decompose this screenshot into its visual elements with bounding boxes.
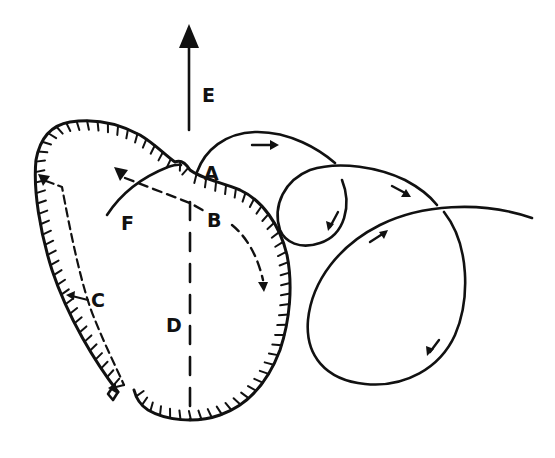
diagram-canvas: E A (0, 0, 555, 458)
hatch-tick (260, 371, 269, 374)
hatch-tick (95, 353, 102, 360)
hatch-tick (42, 142, 51, 145)
hatch-tick (243, 193, 246, 202)
label-d: D (166, 314, 182, 336)
hatch-tick (272, 345, 281, 346)
hatch-tick (142, 398, 147, 406)
hatch-tick (280, 304, 289, 305)
hatch-tick (208, 409, 212, 417)
hatch-tick (39, 211, 48, 214)
hatch-tick (265, 362, 274, 364)
hatch-tick (136, 391, 144, 396)
hatch-tick (117, 126, 118, 135)
label-c: C (91, 289, 105, 311)
direction-arrow-icon (392, 186, 411, 197)
hatch-tick (241, 393, 248, 398)
direction-arrow-icon (326, 212, 338, 231)
arrow-head-icon (38, 174, 50, 186)
hatch-tick (160, 406, 161, 415)
hatch-tick (57, 127, 63, 134)
hatch-tick (38, 151, 47, 152)
hatch-tick (159, 152, 163, 160)
label-f: F (121, 212, 134, 234)
hatch-tick (234, 398, 241, 404)
hatch-tick (50, 261, 58, 266)
hatch-tick (151, 145, 155, 153)
label-a: A (204, 162, 219, 184)
direction-arrow-icon (426, 340, 439, 356)
hatch-tick (225, 185, 226, 194)
hatch-tick (275, 242, 283, 247)
hatch-tick (182, 168, 188, 175)
hatch-tick (77, 121, 80, 130)
hatch-tick (40, 221, 48, 225)
hatch-tick (143, 139, 147, 148)
direction-arrow-icon (370, 230, 388, 242)
hatch-tick (90, 344, 97, 350)
hatch-tick (54, 270, 62, 275)
arrow-head-icon (66, 291, 75, 300)
hatch-tick (269, 353, 278, 355)
hatch-tick (75, 317, 82, 323)
hatch-tick (267, 223, 274, 229)
hatch-tick (36, 160, 45, 161)
loops-path (197, 132, 532, 385)
hatch-tick (135, 134, 137, 143)
hatch-tick (281, 273, 290, 276)
hatch-tick (101, 362, 107, 369)
hatch-tick (235, 188, 236, 197)
hatch-tick (43, 231, 51, 235)
hatch-tick (45, 241, 53, 245)
hatch-tick (85, 335, 92, 341)
hatch-tick (248, 386, 256, 391)
hatched-contour (35, 121, 290, 420)
hatch-tick (254, 379, 262, 383)
arrow-up-icon (179, 24, 199, 48)
hatch-tick (262, 214, 268, 221)
hatch-tick (278, 252, 286, 256)
label-e: E (202, 84, 215, 106)
hatch-tick (198, 411, 201, 420)
hatch-tick (257, 206, 262, 214)
hatch-tick (126, 129, 128, 138)
hatch-tick (48, 251, 56, 255)
hatch-tick (272, 232, 279, 238)
arrow-head-icon (258, 282, 268, 292)
hatch-tick (150, 402, 152, 411)
hatch-tick (250, 199, 254, 207)
direction-arrow-icon (252, 140, 279, 150)
hatch-tick (279, 314, 288, 315)
hatch-tick (57, 280, 65, 285)
dashed-arrow-c (38, 174, 124, 393)
hatch-tick (225, 403, 231, 410)
label-b: B (207, 209, 221, 231)
hatch-tick (194, 174, 196, 183)
hatch-tick (179, 410, 180, 419)
hatch-tick (98, 121, 99, 130)
hatch-tick (70, 308, 77, 314)
hatch-tick (217, 407, 222, 415)
hatch-tick (48, 133, 56, 138)
hatch-tick (79, 326, 86, 332)
hatch-tick (107, 370, 113, 377)
hatch-tick (61, 289, 69, 294)
hatch-tick (36, 190, 45, 193)
hatch-tick (280, 262, 289, 265)
hatch-tick (65, 299, 72, 305)
arrow-e (179, 24, 199, 130)
hatch-tick (66, 123, 70, 131)
